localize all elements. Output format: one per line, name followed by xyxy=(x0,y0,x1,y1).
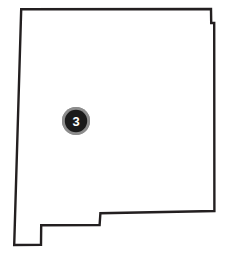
marker-number-label: 3 xyxy=(72,114,79,129)
map-figure: 3 xyxy=(0,0,231,258)
location-marker-3[interactable]: 3 xyxy=(62,107,90,135)
state-map-svg: 3 xyxy=(0,0,231,258)
new-mexico-state-outline-path[interactable] xyxy=(14,9,214,245)
